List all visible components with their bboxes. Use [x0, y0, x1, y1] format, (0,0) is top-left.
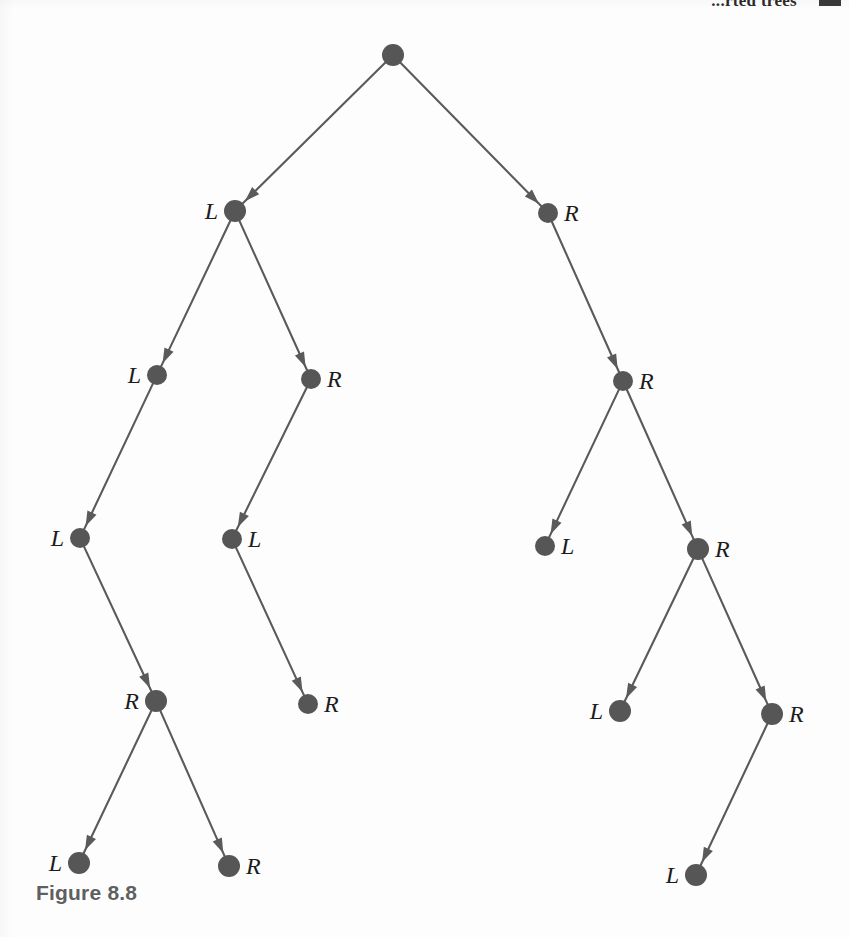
edge-arrowhead — [682, 520, 693, 536]
tree-edge — [549, 389, 619, 538]
node-label-l: L — [247, 526, 261, 552]
tree-node — [382, 44, 404, 66]
edge-arrowhead — [607, 353, 618, 369]
tree-edge — [83, 710, 151, 854]
edge-arrowhead — [163, 348, 174, 364]
tree-node — [613, 371, 633, 391]
tree-node — [761, 703, 783, 725]
tree-edge — [702, 558, 768, 705]
node-label-r: R — [714, 536, 730, 562]
tree-edge — [161, 220, 231, 367]
node-label-l: L — [50, 525, 64, 551]
binary-tree-diagram: LRLRRLLLRRRLRLRL — [0, 0, 849, 937]
tree-edge — [624, 558, 693, 702]
tree-edge — [627, 389, 694, 540]
tree-edge — [84, 546, 152, 692]
tree-edge — [700, 723, 767, 866]
node-label-r: R — [563, 200, 579, 226]
edge-arrowhead — [551, 519, 562, 535]
node-label-r: R — [326, 366, 342, 392]
tree-node — [70, 528, 90, 548]
edge-arrowhead — [139, 673, 150, 689]
tree-node — [224, 200, 246, 222]
node-label-l: L — [204, 198, 218, 224]
tree-edge — [242, 62, 386, 204]
tree-node — [538, 203, 558, 223]
edge-arrowhead — [626, 683, 637, 699]
edge-arrowhead — [756, 685, 767, 701]
tree-node — [685, 864, 707, 886]
edge-arrowhead — [213, 837, 224, 853]
node-label-l: L — [48, 850, 62, 876]
tree-edge — [236, 547, 304, 696]
tree-edge — [552, 221, 620, 373]
node-label-l: L — [127, 362, 141, 388]
edge-arrowhead — [702, 847, 713, 863]
tree-edge — [239, 220, 307, 371]
tree-node — [222, 529, 242, 549]
node-label-l: L — [560, 533, 574, 559]
figure-page: ...rted trees LRLRRLLLRRRLRLRL Figure 8.… — [0, 0, 849, 937]
tree-node — [218, 855, 240, 877]
node-label-r: R — [323, 691, 339, 717]
tree-node — [68, 852, 90, 874]
tree-node — [687, 538, 709, 560]
tree-edge — [400, 62, 542, 206]
edge-arrowhead — [292, 676, 303, 692]
node-label-r: R — [638, 368, 654, 394]
tree-node — [535, 536, 555, 556]
nodes-layer — [68, 44, 783, 886]
tree-node — [609, 700, 631, 722]
node-label-r: R — [245, 853, 261, 879]
tree-node — [298, 694, 318, 714]
node-label-l: L — [665, 862, 679, 888]
tree-node — [145, 690, 167, 712]
tree-edge — [84, 383, 153, 530]
edge-arrowhead — [86, 511, 97, 527]
tree-node — [147, 365, 167, 385]
tree-edge — [160, 710, 225, 857]
node-label-l: L — [589, 698, 603, 724]
figure-caption: Figure 8.8 — [36, 881, 137, 905]
node-label-r: R — [123, 688, 139, 714]
edges-layer — [83, 62, 768, 866]
edge-arrowhead — [295, 351, 306, 367]
edge-arrowhead — [85, 835, 96, 851]
tree-edge — [236, 387, 307, 531]
node-label-r: R — [788, 701, 804, 727]
tree-node — [301, 369, 321, 389]
edge-arrowhead — [238, 512, 249, 528]
